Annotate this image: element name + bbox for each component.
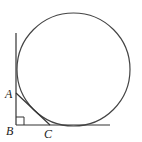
tangent-circle [17, 13, 130, 126]
label-c: C [44, 127, 53, 141]
geometry-diagram: A B C [0, 0, 142, 142]
segment-ac [16, 93, 50, 125]
right-angle-marker [16, 117, 24, 125]
label-a: A [4, 87, 13, 101]
label-b: B [6, 124, 14, 138]
